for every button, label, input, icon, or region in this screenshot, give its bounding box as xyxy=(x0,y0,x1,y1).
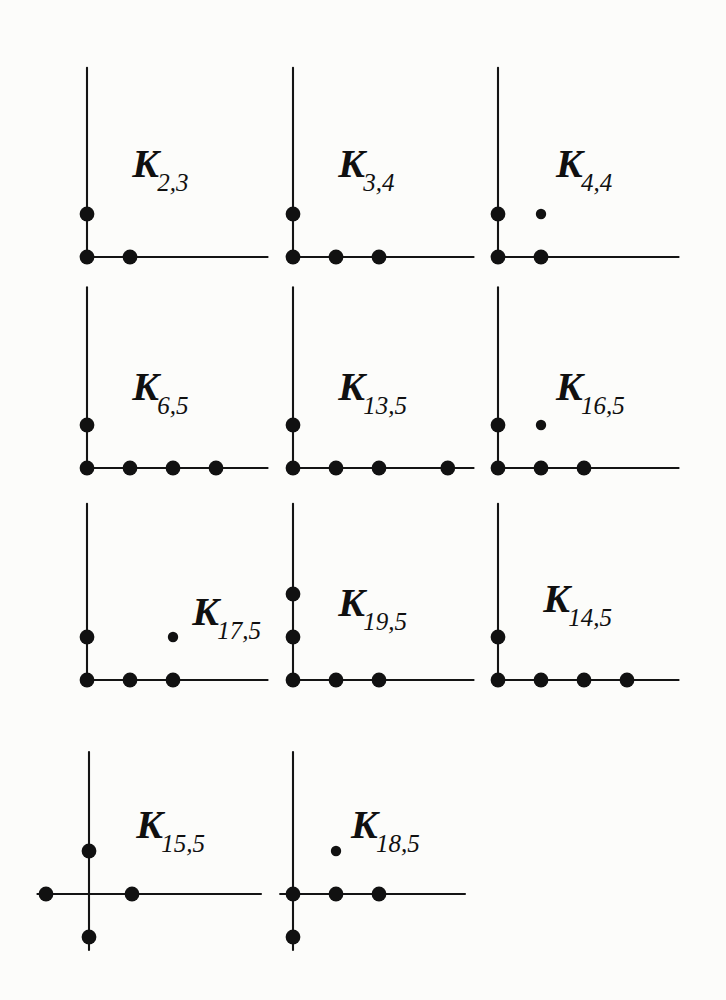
node-dot xyxy=(286,887,301,902)
panel-k-6-5: K6,5 xyxy=(80,287,268,475)
panel-label-subscript: 19,5 xyxy=(363,608,407,635)
node-dot xyxy=(286,673,301,688)
node-dot xyxy=(491,250,506,265)
node-dot xyxy=(286,630,301,645)
node-dot xyxy=(39,887,54,902)
node-dot xyxy=(329,461,344,476)
node-dot xyxy=(166,673,181,688)
panel-k-18-5: K18,5 xyxy=(280,752,465,950)
diagram-canvas: K2,3K3,4K4,4K6,5K13,5K16,5K17,5K19,5K14,… xyxy=(0,0,726,1000)
panel-label-subscript: 3,4 xyxy=(362,169,394,196)
node-dot xyxy=(286,418,301,433)
node-dot xyxy=(123,461,138,476)
node-dot xyxy=(123,250,138,265)
node-dot xyxy=(536,420,546,430)
node-dot xyxy=(168,632,178,642)
node-dot xyxy=(372,461,387,476)
node-dot xyxy=(331,846,341,856)
node-dot xyxy=(491,461,506,476)
node-dot xyxy=(577,461,592,476)
node-dot xyxy=(620,673,635,688)
panel-k-2-3: K2,3 xyxy=(80,68,268,265)
panel-k-14-5: K14,5 xyxy=(491,504,679,688)
node-dot xyxy=(80,418,95,433)
node-dot xyxy=(491,207,506,222)
node-dot xyxy=(286,250,301,265)
node-dot xyxy=(286,930,301,945)
node-dot xyxy=(372,250,387,265)
node-dot xyxy=(329,673,344,688)
node-dot xyxy=(82,844,97,859)
node-dot xyxy=(166,461,181,476)
node-dot xyxy=(80,673,95,688)
panel-k-4-4: K4,4 xyxy=(491,68,679,265)
node-dot xyxy=(372,887,387,902)
panel-label-subscript: 16,5 xyxy=(581,392,625,419)
figure-root: K2,3K3,4K4,4K6,5K13,5K16,5K17,5K19,5K14,… xyxy=(0,0,726,1000)
node-dot xyxy=(491,673,506,688)
node-dot xyxy=(329,887,344,902)
node-dot xyxy=(82,930,97,945)
node-dot xyxy=(491,418,506,433)
panel-k-19-5: K19,5 xyxy=(286,504,474,688)
node-dot xyxy=(80,630,95,645)
node-dot xyxy=(80,207,95,222)
node-dot xyxy=(440,461,455,476)
panel-label-subscript: 6,5 xyxy=(157,392,188,419)
node-dot xyxy=(491,630,506,645)
node-dot xyxy=(534,250,549,265)
panel-k-16-5: K16,5 xyxy=(491,287,679,475)
panel-k-13-5: K13,5 xyxy=(286,287,474,475)
node-dot xyxy=(534,461,549,476)
panel-k-17-5: K17,5 xyxy=(80,504,268,688)
node-dot xyxy=(125,887,140,902)
panel-label-subscript: 2,3 xyxy=(157,169,188,196)
node-dot xyxy=(80,250,95,265)
node-dot xyxy=(286,207,301,222)
panel-label-subscript: 13,5 xyxy=(363,392,407,419)
node-dot xyxy=(536,209,546,219)
node-dot xyxy=(372,673,387,688)
panel-label-subscript: 14,5 xyxy=(568,604,612,631)
node-dot xyxy=(209,461,224,476)
node-dot xyxy=(123,673,138,688)
panel-label-subscript: 17,5 xyxy=(217,617,261,644)
panel-k-3-4: K3,4 xyxy=(286,68,474,265)
panel-label-subscript: 15,5 xyxy=(161,830,205,857)
panel-k-15-5: K15,5 xyxy=(37,752,261,950)
node-dot xyxy=(329,250,344,265)
node-dot xyxy=(80,461,95,476)
node-dot xyxy=(577,673,592,688)
panel-label-subscript: 4,4 xyxy=(581,169,612,196)
node-dot xyxy=(286,461,301,476)
node-dot xyxy=(534,673,549,688)
panel-label-subscript: 18,5 xyxy=(376,830,420,857)
node-dot xyxy=(286,587,301,602)
